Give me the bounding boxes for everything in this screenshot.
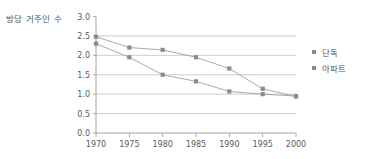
y-tick-label: 1.0 bbox=[77, 90, 90, 99]
series-line-1 bbox=[96, 44, 296, 96]
data-point-1-5 bbox=[261, 92, 265, 96]
x-tick-label: 1995 bbox=[252, 140, 272, 149]
x-tick-label: 1980 bbox=[152, 140, 172, 149]
chart-container: 방당 거주인 수 0.00.51.01.52.02.53.0 197019751… bbox=[0, 0, 366, 159]
legend-marker-icon bbox=[312, 50, 316, 54]
y-tick-label: 0.0 bbox=[77, 129, 90, 138]
x-tick-label: 1975 bbox=[119, 140, 139, 149]
chart-legend: 단독 아파트 bbox=[308, 44, 366, 76]
data-point-1-6 bbox=[294, 94, 298, 98]
y-tick-label: 2.0 bbox=[77, 51, 90, 60]
data-point-0-3 bbox=[194, 55, 198, 59]
legend-marker-icon bbox=[312, 66, 316, 70]
data-point-0-2 bbox=[161, 48, 165, 52]
x-tick-label: 1990 bbox=[219, 140, 239, 149]
data-series bbox=[94, 35, 298, 99]
x-tick-label: 1985 bbox=[186, 140, 206, 149]
legend-label: 아파트 bbox=[322, 62, 347, 74]
y-axis-ticks: 0.00.51.01.52.02.53.0 bbox=[77, 13, 96, 139]
data-point-0-0 bbox=[94, 35, 98, 39]
data-point-1-0 bbox=[94, 42, 98, 46]
x-axis-ticks: 1970197519801985199019952000 bbox=[86, 133, 306, 149]
data-point-1-4 bbox=[227, 89, 231, 93]
legend-label: 단독 bbox=[322, 46, 338, 58]
y-tick-label: 1.5 bbox=[77, 71, 90, 80]
y-tick-label: 3.0 bbox=[77, 13, 90, 22]
y-tick-label: 2.5 bbox=[77, 32, 90, 41]
data-point-0-1 bbox=[127, 45, 131, 49]
data-point-1-3 bbox=[194, 79, 198, 83]
gridlines bbox=[96, 36, 296, 114]
data-point-0-4 bbox=[227, 66, 231, 70]
series-line-0 bbox=[96, 37, 296, 97]
x-tick-label: 2000 bbox=[286, 140, 306, 149]
data-point-1-2 bbox=[161, 73, 165, 77]
chart-plot-svg: 0.00.51.01.52.02.53.0 197019751980198519… bbox=[0, 0, 366, 159]
y-tick-label: 0.5 bbox=[77, 110, 90, 119]
data-point-1-1 bbox=[127, 55, 131, 59]
legend-item-1[interactable]: 아파트 bbox=[308, 60, 366, 76]
legend-item-0[interactable]: 단독 bbox=[308, 44, 366, 60]
data-point-0-5 bbox=[261, 87, 265, 91]
x-tick-label: 1970 bbox=[86, 140, 106, 149]
